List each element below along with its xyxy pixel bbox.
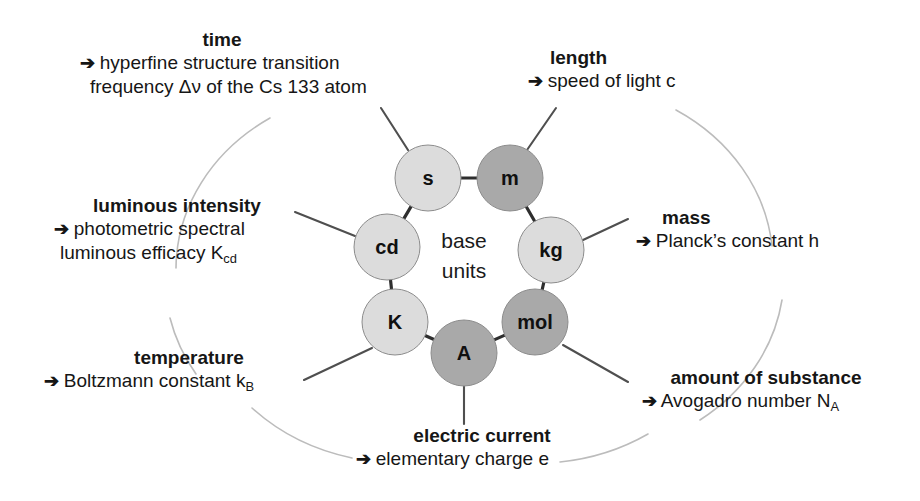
label-mass-line1: ➔ Planck’s constant h	[636, 229, 896, 253]
label-temperature-line1: ➔ Boltzmann constant kB	[44, 369, 334, 394]
subscript-a: A	[830, 399, 839, 414]
label-time-line2: frequency Δν of the Cs 133 atom	[72, 75, 372, 98]
connector-cd-s	[403, 205, 412, 221]
arrow-icon: ➔	[80, 53, 95, 73]
connector-m-kg	[525, 205, 535, 223]
label-luminous-intensity-line2: luminous efficacy Kcd	[52, 241, 302, 266]
arrow-icon: ➔	[528, 71, 543, 91]
center-label-line1: base	[441, 229, 487, 252]
label-time-line1: ➔ hyperfine structure transition	[72, 51, 372, 75]
label-amount-of-substance-title: amount of substance	[616, 366, 916, 389]
unit-node-label-cd: cd	[375, 236, 398, 258]
unit-node-label-s: s	[422, 167, 433, 189]
unit-node-label-m: m	[501, 167, 519, 189]
label-temperature: temperature ➔ Boltzmann constant kB	[44, 346, 334, 395]
unit-node-label-kg: kg	[539, 239, 562, 261]
label-electric-current-line1: ➔ elementary charge e	[352, 447, 612, 471]
label-amount-of-substance-line1: ➔ Avogadro number NA	[616, 389, 916, 414]
label-luminous-intensity-title: luminous intensity	[52, 194, 302, 217]
spoke-time	[381, 108, 408, 150]
subscript-b: B	[245, 379, 254, 394]
spoke-mass	[583, 219, 628, 240]
label-time: time ➔ hyperfine structure transition fr…	[72, 28, 372, 98]
arrow-icon: ➔	[54, 219, 69, 239]
label-temperature-title: temperature	[44, 346, 334, 369]
arrow-icon: ➔	[642, 391, 657, 411]
label-mass-title: mass	[636, 206, 896, 229]
label-mass: mass ➔ Planck’s constant h	[636, 206, 896, 253]
label-luminous-intensity-line1: ➔ photometric spectral	[52, 217, 302, 241]
background-arc-bottom-left	[252, 408, 352, 458]
arrow-icon: ➔	[636, 231, 651, 251]
subscript-cd: cd	[223, 251, 237, 266]
label-length: length ➔ speed of light c	[528, 46, 768, 93]
label-electric-current: electric current ➔ elementary charge e	[352, 424, 612, 471]
label-length-line1: ➔ speed of light c	[528, 69, 768, 93]
center-label-line2: units	[442, 259, 486, 282]
unit-node-label-mol: mol	[517, 311, 553, 333]
unit-node-label-A: A	[457, 342, 471, 364]
label-length-title: length	[528, 46, 768, 69]
arrow-icon: ➔	[356, 449, 371, 469]
unit-node-label-K: K	[388, 311, 403, 333]
si-base-units-diagram: smcdkgKmolA base units time ➔ hyperfine …	[0, 0, 920, 501]
spoke-length	[527, 108, 556, 150]
label-amount-of-substance: amount of substance ➔ Avogadro number NA	[616, 366, 916, 415]
label-electric-current-title: electric current	[352, 424, 612, 447]
label-time-title: time	[72, 28, 372, 51]
spoke-luminous-intensity	[295, 212, 355, 236]
arrow-icon: ➔	[44, 371, 59, 391]
label-luminous-intensity: luminous intensity ➔ photometric spectra…	[52, 194, 302, 266]
